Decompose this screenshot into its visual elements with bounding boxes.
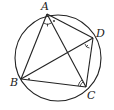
angle-dot-dbc bbox=[28, 78, 30, 80]
label-c: C bbox=[87, 89, 96, 102]
diagonal-bd bbox=[21, 38, 93, 79]
segment-cd bbox=[86, 38, 93, 87]
angle-dot-cad bbox=[53, 20, 55, 22]
segment-ab bbox=[21, 14, 47, 79]
label-a: A bbox=[40, 0, 49, 13]
angle-tick-adb bbox=[86, 45, 88, 47]
segment-bc bbox=[21, 79, 86, 87]
cyclic-quadrilateral-diagram: A D B C bbox=[0, 0, 114, 110]
label-d: D bbox=[95, 27, 105, 40]
diagonal-ac bbox=[47, 14, 86, 87]
angle-arc-acb-2 bbox=[80, 82, 83, 87]
label-b: B bbox=[9, 76, 18, 89]
